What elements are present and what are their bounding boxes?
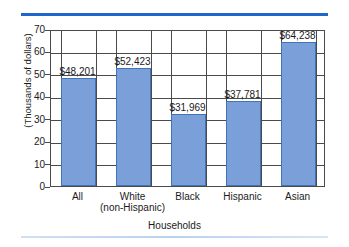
bottom-decorative-rule bbox=[21, 236, 328, 238]
top-decorative-rule bbox=[21, 13, 328, 16]
x-tick-4: Asian bbox=[253, 191, 343, 202]
bar-2[interactable] bbox=[171, 114, 206, 186]
y-tick-30: 30 bbox=[18, 114, 45, 125]
vgridline-3-1 bbox=[261, 31, 262, 186]
x-tick-label-primary-1: White bbox=[120, 191, 146, 202]
bar-1[interactable] bbox=[116, 68, 151, 186]
value-label-2: $31,969 bbox=[153, 102, 223, 113]
value-label-1: $52,423 bbox=[98, 56, 168, 67]
y-tick-60: 60 bbox=[18, 46, 45, 57]
vgridline-4-1 bbox=[316, 31, 317, 186]
bar-3[interactable] bbox=[226, 101, 261, 186]
vgridline-0-1 bbox=[96, 31, 97, 186]
y-tick-40: 40 bbox=[18, 91, 45, 102]
value-label-4: $64,238 bbox=[263, 30, 333, 41]
chart-page: (Thousands of dollars) 010203040506070 $… bbox=[0, 0, 349, 247]
x-tick-label-primary-2: Black bbox=[175, 191, 199, 202]
value-label-0: $48,201 bbox=[43, 66, 113, 77]
value-label-3: $37,781 bbox=[208, 89, 278, 100]
x-tick-label-primary-0: All bbox=[72, 191, 83, 202]
x-axis-title: Households bbox=[0, 220, 349, 231]
y-tick-20: 20 bbox=[18, 136, 45, 147]
y-tick-10: 10 bbox=[18, 159, 45, 170]
bar-4[interactable] bbox=[281, 42, 316, 186]
x-tick-label-secondary-1: (non-Hispanic) bbox=[88, 202, 178, 213]
bar-0[interactable] bbox=[61, 78, 96, 186]
y-tick-70: 70 bbox=[18, 24, 45, 35]
bar-chart-figure: (Thousands of dollars) 010203040506070 $… bbox=[0, 20, 349, 235]
y-tick-50: 50 bbox=[18, 69, 45, 80]
x-tick-label-primary-4: Asian bbox=[285, 191, 310, 202]
